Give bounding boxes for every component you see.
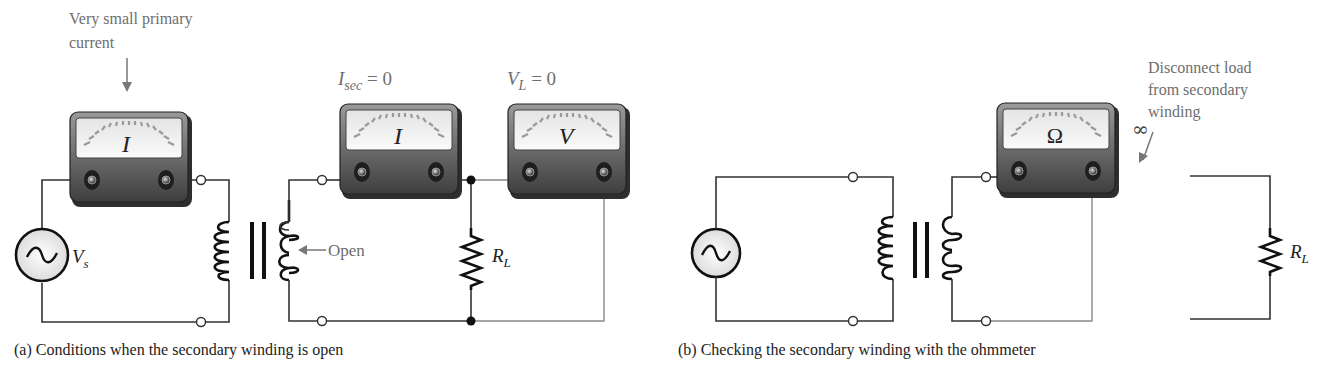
secondary-ammeter: I <box>340 104 462 199</box>
meter-symbol: I <box>121 131 131 157</box>
arrowhead-icon <box>122 82 132 92</box>
primary-ammeter: I <box>70 112 192 207</box>
isec-label: Isec = 0 <box>337 68 392 93</box>
transformer-icon <box>215 200 298 280</box>
terminal <box>197 176 206 185</box>
caption-b: (b) Checking the secondary winding with … <box>678 341 1036 359</box>
wire <box>1190 276 1270 319</box>
wire <box>289 280 318 321</box>
wire <box>858 177 893 217</box>
wire <box>471 188 604 321</box>
wire <box>858 279 893 321</box>
ohmmeter: Ω <box>997 103 1119 198</box>
figure-a: Very small primary current I Vs <box>14 10 630 359</box>
figure-b: Ω ∞ Disconnect load from secondary windi… <box>678 59 1309 359</box>
terminal <box>982 173 991 182</box>
terminal <box>197 318 206 327</box>
resistor-icon <box>462 228 481 290</box>
wire <box>952 177 982 217</box>
wire <box>991 186 1092 321</box>
primary-current-note: Very small primary <box>69 10 193 28</box>
terminal <box>982 317 991 326</box>
arrowhead-icon <box>298 245 307 255</box>
source-label: Vs <box>72 246 89 271</box>
disconnect-note-3: winding <box>1148 103 1200 121</box>
disconnect-note: Disconnect load <box>1148 59 1252 76</box>
terminal <box>318 317 327 326</box>
transformer-diagram: Very small primary current I Vs <box>0 0 1325 383</box>
disconnect-note-2: from secondary <box>1148 81 1248 99</box>
meter-symbol: V <box>559 123 576 149</box>
wire <box>42 283 196 322</box>
terminal <box>849 173 858 182</box>
wire <box>289 180 318 222</box>
primary-current-note-2: current <box>69 34 115 51</box>
wire <box>716 177 849 229</box>
load-label: RL <box>491 245 511 270</box>
open-note: Open <box>328 241 365 260</box>
wire <box>206 280 229 322</box>
terminal <box>849 317 858 326</box>
load-voltmeter: V <box>508 104 630 199</box>
load-label: RL <box>1289 241 1309 266</box>
meter-symbol: Ω <box>1047 123 1063 148</box>
infinity-reading: ∞ <box>1132 117 1149 141</box>
meter-symbol: I <box>393 123 403 149</box>
arrowhead-icon <box>1139 152 1148 163</box>
caption-a: (a) Conditions when the secondary windin… <box>14 341 343 359</box>
ac-source-icon <box>16 229 68 281</box>
wire <box>1190 176 1270 228</box>
resistor-icon <box>1261 228 1280 276</box>
vl-label: VL = 0 <box>507 68 556 93</box>
junction-node <box>467 317 476 326</box>
ac-source-icon <box>692 229 740 277</box>
wire <box>206 180 229 222</box>
terminal <box>318 176 327 185</box>
transformer-icon <box>879 217 961 279</box>
wire <box>716 277 849 321</box>
wire <box>952 279 982 321</box>
junction-node <box>467 176 476 185</box>
